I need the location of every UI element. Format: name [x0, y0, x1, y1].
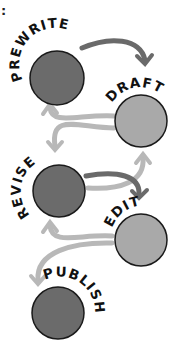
arrow-draft-to-prewrite [43, 104, 114, 118]
publish-stage-circle [32, 287, 84, 339]
revise-stage-circle [33, 165, 85, 217]
arrow-draft-to-revise [48, 124, 114, 150]
prewrite-stage-circle [30, 51, 84, 105]
writing-process-diagram: PREWRITE DRAFT REVISE EDIT PUBLISH [0, 0, 183, 360]
arrow-revise-to-draft [88, 154, 150, 188]
draft-stage-circle [115, 95, 167, 147]
arrow-prewrite-to-draft [82, 41, 152, 64]
arrow-edit-to-revise [43, 222, 112, 238]
edit-stage-circle [115, 214, 167, 266]
